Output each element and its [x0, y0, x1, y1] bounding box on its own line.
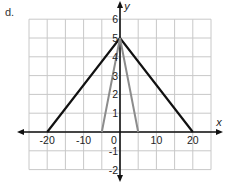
y-tick-label: 4	[112, 51, 118, 63]
x-axis-right-arrow-icon	[216, 129, 223, 135]
y-tick-label: 1	[112, 107, 118, 119]
x-axis-label: x	[215, 116, 222, 128]
y-axis-down-arrow-icon	[117, 175, 123, 182]
tick-labels: -20-1001020-2-1123456xy	[40, 0, 223, 176]
coordinate-plane: -20-1001020-2-1123456xy	[0, 0, 227, 183]
part-label: d.	[5, 6, 14, 18]
x-tick-label: -20	[40, 134, 55, 146]
graph-figure: d. -20-1001020-2-1123456xy	[0, 0, 227, 183]
y-tick-label: 3	[112, 70, 118, 82]
y-axis-up-arrow-icon	[117, 1, 123, 8]
x-tick-label: 10	[151, 134, 163, 146]
y-tick-label: -1	[109, 145, 118, 157]
x-tick-label: 20	[187, 134, 199, 146]
y-tick-label: 6	[112, 13, 118, 25]
x-tick-label: -10	[76, 134, 91, 146]
y-tick-label: 5	[112, 32, 118, 44]
x-axis-left-arrow-icon	[17, 129, 24, 135]
y-axis-label: y	[123, 0, 131, 12]
y-tick-label: -2	[109, 164, 118, 176]
y-tick-label: 2	[112, 88, 118, 100]
axes	[17, 1, 223, 182]
